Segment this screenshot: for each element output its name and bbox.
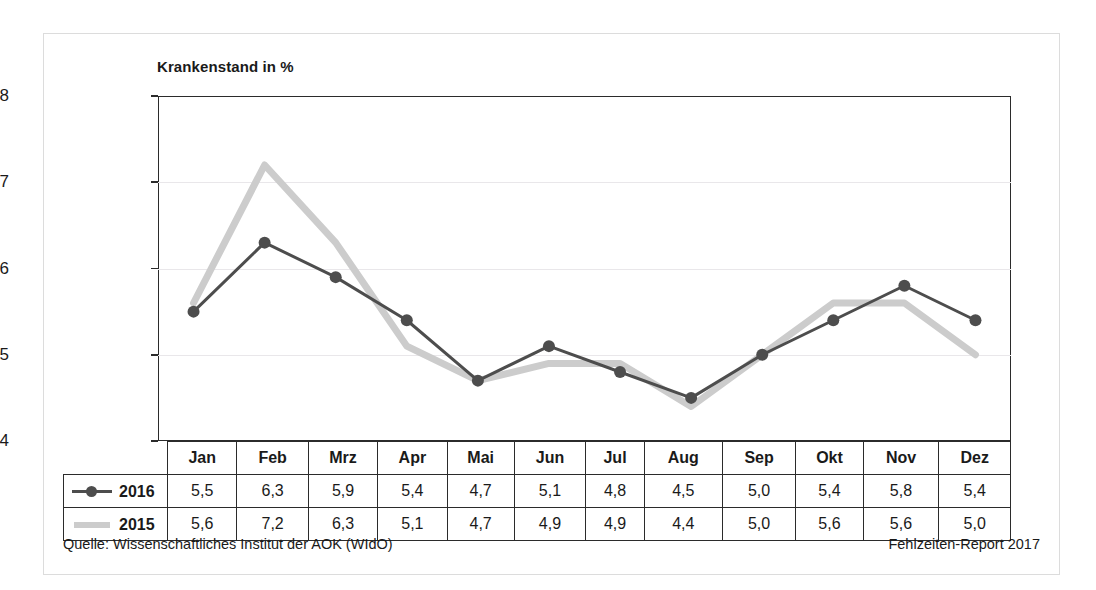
- data-point-marker: [827, 314, 839, 326]
- footer-report-text: Fehlzeiten-Report 2017: [888, 536, 1040, 552]
- table-cell: 5,1: [514, 475, 586, 508]
- plot-area: 45678: [158, 96, 1011, 441]
- legend-label: 2016: [119, 482, 155, 499]
- table-header-jul: Jul: [586, 442, 645, 475]
- table-header-okt: Okt: [796, 442, 863, 475]
- table-header-aug: Aug: [644, 442, 722, 475]
- table-cell: 5,8: [863, 475, 939, 508]
- table-header-jan: Jan: [168, 442, 237, 475]
- y-tick-mark: [151, 268, 158, 270]
- series-line-2016: [194, 243, 976, 398]
- data-point-marker: [685, 392, 697, 404]
- chart-title: Krankenstand in %: [157, 58, 294, 75]
- table-header-dez: Dez: [939, 442, 1011, 475]
- table-cell: 4,5: [644, 475, 722, 508]
- legend-swatch-icon: [72, 485, 112, 497]
- table-cell: 5,4: [939, 475, 1011, 508]
- table-cell: 4,7: [447, 475, 514, 508]
- table-header-jun: Jun: [514, 442, 586, 475]
- data-point-marker: [188, 306, 200, 318]
- data-point-marker: [259, 237, 271, 249]
- footer: Quelle: Wissenschaftliches Institut der …: [63, 532, 1040, 562]
- y-tick-label: 6: [0, 259, 9, 279]
- table-row: 20165,56,35,95,44,75,14,84,55,05,45,85,4: [64, 475, 1011, 508]
- table-cell: 5,4: [796, 475, 863, 508]
- y-tick-mark: [151, 95, 158, 97]
- table-header-mrz: Mrz: [308, 442, 377, 475]
- legend-swatch-icon: [72, 518, 112, 530]
- legend-label: 2015: [119, 515, 155, 532]
- table-header-row: JanFebMrzAprMaiJunJulAugSepOktNovDez: [64, 442, 1011, 475]
- y-tick-mark: [151, 181, 158, 183]
- table-cell: 5,5: [168, 475, 237, 508]
- data-point-marker: [969, 314, 981, 326]
- series-line-2015: [194, 165, 976, 407]
- data-point-marker: [898, 280, 910, 292]
- table-header-nov: Nov: [863, 442, 939, 475]
- table-cell: 4,8: [586, 475, 645, 508]
- data-point-marker: [401, 314, 413, 326]
- y-tick-label: 7: [0, 172, 9, 192]
- legend-cell-2016: 2016: [64, 475, 168, 508]
- table-cell: 5,0: [722, 475, 796, 508]
- table-header-feb: Feb: [237, 442, 309, 475]
- data-point-marker: [614, 366, 626, 378]
- footer-source-text: Quelle: Wissenschaftliches Institut der …: [63, 536, 393, 552]
- table-header-sep: Sep: [722, 442, 796, 475]
- table-cell: 6,3: [237, 475, 309, 508]
- figure-panel: Krankenstand in % 45678 JanFebMrzAprMaiJ…: [43, 33, 1060, 575]
- table-header-mai: Mai: [447, 442, 514, 475]
- table-header-apr: Apr: [378, 442, 447, 475]
- series-lines: [158, 96, 1011, 441]
- data-point-marker: [472, 375, 484, 387]
- table-cell: 5,9: [308, 475, 377, 508]
- y-tick-label: 8: [0, 86, 9, 106]
- data-point-marker: [543, 340, 555, 352]
- data-point-marker: [756, 349, 768, 361]
- y-tick-mark: [151, 354, 158, 356]
- y-tick-label: 5: [0, 345, 9, 365]
- data-point-marker: [330, 271, 342, 283]
- data-table: JanFebMrzAprMaiJunJulAugSepOktNovDez 201…: [63, 441, 1011, 541]
- table-corner-cell: [64, 442, 168, 475]
- table-cell: 5,4: [378, 475, 447, 508]
- y-tick-label: 4: [0, 431, 9, 451]
